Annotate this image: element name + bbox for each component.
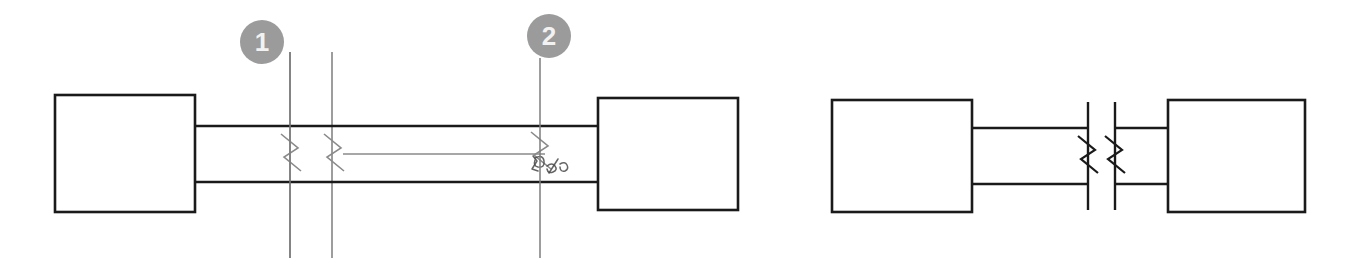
engineering-drawing-canvas: 12 xyxy=(0,0,1347,266)
left-component-block xyxy=(55,95,195,212)
break-symbol-b xyxy=(324,134,344,171)
right-assembly-left-block xyxy=(832,100,972,212)
balloon-callout-1-label: 1 xyxy=(255,27,269,57)
drawing-vector-surface: 12 xyxy=(0,0,1347,266)
right-assembly-right-block xyxy=(1168,100,1305,212)
handwritten-annotation-stroke-4 xyxy=(549,159,558,173)
handwritten-annotation-stroke-5 xyxy=(560,163,568,171)
right-component-block xyxy=(598,98,738,210)
break-symbol-a xyxy=(281,134,301,171)
balloon-callout-2-label: 2 xyxy=(542,21,556,51)
